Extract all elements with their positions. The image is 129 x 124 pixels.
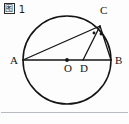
point-label-a: A (10, 54, 18, 66)
point-label-c: C (100, 4, 107, 16)
angle-marker-acd (93, 32, 96, 35)
segment-CB (100, 26, 111, 60)
bottom-separator-rule (1, 112, 128, 113)
point-label-o: O (64, 62, 72, 74)
point-label-b: B (115, 54, 122, 66)
angle-marker-dcb (100, 33, 103, 36)
point-label-d: D (80, 62, 88, 74)
geometry-diagram: A B C O D (0, 0, 129, 124)
segment-CD (83, 26, 100, 60)
figure-root: 图 1 A B C O D (0, 0, 129, 124)
